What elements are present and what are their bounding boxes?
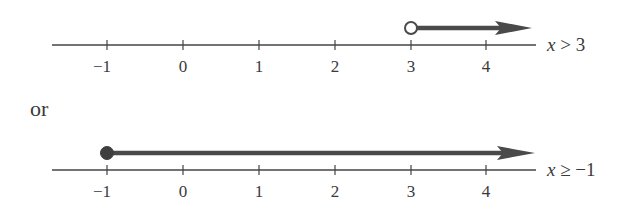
inequality-label: x ≥ −1 bbox=[546, 159, 596, 180]
tick-label: 1 bbox=[255, 182, 264, 201]
tick-label: 3 bbox=[407, 182, 416, 201]
tick-label: 4 bbox=[482, 182, 491, 201]
tick-label: 1 bbox=[255, 57, 264, 76]
number-line-bottom: −1 0 1 2 3 4 x ≥ −1 bbox=[52, 146, 596, 201]
number-line-top: −1 0 1 2 3 4 x > 3 bbox=[52, 21, 585, 76]
closed-circle-endpoint-icon bbox=[101, 147, 114, 160]
number-lines-figure: −1 0 1 2 3 4 x > 3 −1 0 1 2 3 bbox=[0, 0, 635, 210]
tick-label: −1 bbox=[93, 57, 111, 76]
tick-label: 3 bbox=[407, 57, 416, 76]
connector-or-text: or bbox=[30, 96, 48, 122]
tick-label: −1 bbox=[93, 182, 111, 201]
open-circle-endpoint-icon bbox=[405, 22, 417, 34]
tick-label: 0 bbox=[179, 182, 188, 201]
inequality-label: x > 3 bbox=[546, 34, 585, 55]
tick-labels: −1 0 1 2 3 4 bbox=[93, 57, 491, 76]
tick-labels: −1 0 1 2 3 4 bbox=[93, 182, 491, 201]
tick-label: 2 bbox=[331, 182, 340, 201]
tick-label: 2 bbox=[331, 57, 340, 76]
tick-label: 0 bbox=[179, 57, 188, 76]
tick-label: 4 bbox=[482, 57, 491, 76]
